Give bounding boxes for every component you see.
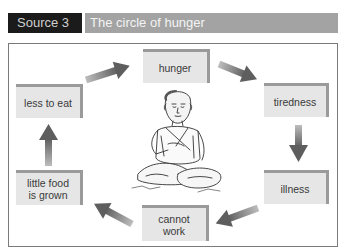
starving-child-illustration <box>128 88 228 196</box>
